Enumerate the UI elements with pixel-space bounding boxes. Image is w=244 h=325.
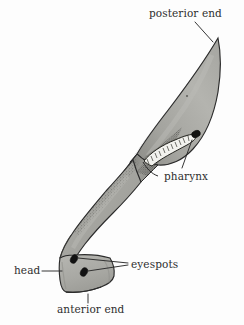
label-anterior-end: anterior end — [57, 304, 124, 315]
label-pharynx: pharynx — [164, 171, 208, 182]
surface-speckle — [186, 95, 188, 97]
anterior-lobe-highlight — [73, 176, 128, 248]
label-head: head — [14, 265, 40, 276]
planarian-illustration — [0, 0, 244, 325]
leader-posterior-end — [195, 22, 213, 42]
anterior-lobe — [60, 158, 141, 262]
label-posterior-end: posterior end — [149, 8, 222, 19]
label-eyespots: eyespots — [131, 259, 178, 270]
anterior-lobe-shading — [73, 158, 140, 236]
figure-canvas: posterior end pharynx eyespots head ante… — [0, 0, 244, 325]
